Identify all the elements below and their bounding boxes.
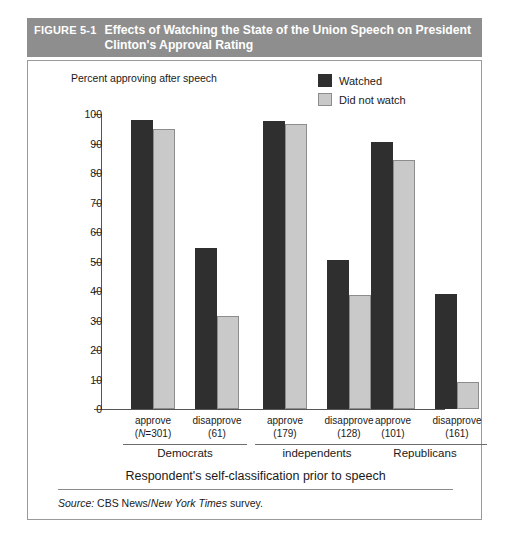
group-label-democrats: Democrats bbox=[123, 447, 247, 459]
x-tick-label-independents-approve: approve(179) bbox=[257, 414, 313, 440]
group-divider-independents bbox=[255, 444, 379, 445]
source-publication: New York Times bbox=[151, 497, 227, 509]
x-tick-sample-size: (61) bbox=[189, 427, 245, 440]
x-tick-sample-size: (161) bbox=[429, 427, 485, 440]
x-axis-labels: approve(N=301)disapprove(61)Democratsapp… bbox=[28, 61, 483, 521]
group-divider-democrats bbox=[123, 444, 247, 445]
x-tick-category: approve bbox=[135, 415, 171, 426]
plot-area: 1009080706050403020100 approve(N=301)dis… bbox=[28, 61, 483, 521]
figure-page: FIGURE 5-1 Effects of Watching the State… bbox=[0, 0, 508, 548]
x-tick-sample-size: (N=301) bbox=[125, 427, 181, 440]
figure-frame: Percent approving after speech Watched D… bbox=[27, 60, 482, 520]
figure-number: FIGURE 5-1 bbox=[34, 23, 97, 36]
figure-header-band: FIGURE 5-1 Effects of Watching the State… bbox=[27, 18, 482, 57]
x-tick-category: disapprove bbox=[193, 415, 242, 426]
x-tick-label-democrats-approve: approve(N=301) bbox=[125, 414, 181, 440]
x-tick-sample-size: (101) bbox=[365, 427, 421, 440]
x-tick-label-republicans-approve: approve(101) bbox=[365, 414, 421, 440]
x-tick-category: disapprove bbox=[433, 415, 482, 426]
group-label-republicans: Republicans bbox=[363, 447, 487, 459]
source-post: survey. bbox=[230, 497, 263, 509]
x-tick-category: approve bbox=[267, 415, 303, 426]
source-note: Source: CBS News/New York Times survey. bbox=[58, 497, 263, 509]
x-tick-label-republicans-disapprove: disapprove(161) bbox=[429, 414, 485, 440]
x-tick-label-democrats-disapprove: disapprove(61) bbox=[189, 414, 245, 440]
source-divider bbox=[58, 489, 453, 490]
source-pre: CBS News/ bbox=[97, 497, 151, 509]
group-divider-republicans bbox=[363, 444, 487, 445]
x-tick-category: approve bbox=[375, 415, 411, 426]
source-label: Source: bbox=[58, 497, 94, 509]
group-label-independents: independents bbox=[255, 447, 379, 459]
x-tick-sample-size: (179) bbox=[257, 427, 313, 440]
x-axis-title: Respondent's self-classification prior t… bbox=[28, 469, 483, 483]
figure-title: Effects of Watching the State of the Uni… bbox=[105, 23, 482, 52]
